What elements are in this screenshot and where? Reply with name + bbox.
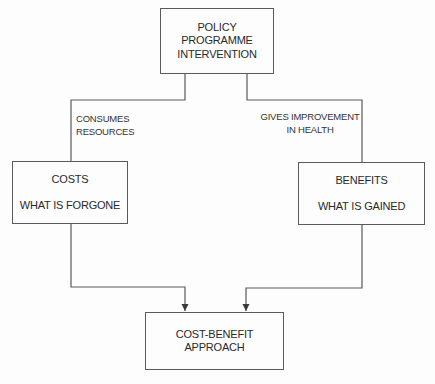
node-costs: COSTS WHAT IS FORGONE	[12, 161, 128, 224]
node-text-line: PROGRAMME	[181, 34, 253, 48]
edge-costs-to-approach	[71, 224, 185, 311]
node-text-line: INTERVENTION	[177, 48, 256, 62]
node-subtitle: WHAT IS FORGONE	[20, 199, 121, 213]
node-title: BENEFITS	[335, 174, 387, 188]
node-title: COSTS	[52, 173, 89, 187]
edge-label-consumes-resources: CONSUMES RESOURCES	[76, 113, 188, 138]
edge-label-line: GIVES IMPROVEMENT	[255, 111, 365, 124]
edge-label-gives-improvement: GIVES IMPROVEMENT IN HEALTH	[255, 111, 365, 136]
node-text-line: APPROACH	[184, 341, 244, 355]
node-text-line: POLICY	[197, 21, 236, 35]
node-policy-programme-intervention: POLICY PROGRAMME INTERVENTION	[160, 8, 274, 74]
edge-benefits-to-approach	[246, 225, 362, 311]
node-cost-benefit-approach: COST-BENEFIT APPROACH	[145, 312, 284, 370]
node-benefits: BENEFITS WHAT IS GAINED	[298, 162, 425, 225]
node-subtitle: WHAT IS GAINED	[318, 200, 405, 214]
cost-benefit-diagram: POLICY PROGRAMME INTERVENTION CONSUMES R…	[0, 0, 435, 384]
edge-label-line: IN HEALTH	[255, 124, 365, 137]
node-text-line: COST-BENEFIT	[176, 328, 254, 342]
